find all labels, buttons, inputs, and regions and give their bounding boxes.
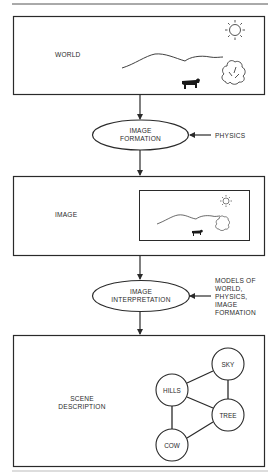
sun-icon: [225, 20, 245, 40]
small-hills-icon: [157, 215, 220, 224]
hills-icon: [122, 54, 223, 68]
svg-text:FORMATION: FORMATION: [215, 309, 256, 316]
scene-node-sky: SKY: [212, 348, 244, 380]
scene-label-line2: DESCRIPTION: [58, 403, 105, 410]
svg-text:IMAGE: IMAGE: [215, 301, 238, 308]
small-cow-icon: [192, 230, 203, 236]
models-label: MODELS OF WORLD, PHYSICS, IMAGE FORMATIO…: [215, 277, 256, 316]
tree-icon: [222, 61, 245, 85]
world-box: WORLD: [14, 17, 265, 95]
small-tree-icon: [216, 216, 230, 231]
scene-label-line1: SCENE: [70, 395, 94, 402]
interpretation-line1: IMAGE: [130, 288, 153, 295]
scene-node-hills: HILLS: [156, 374, 188, 406]
image-interpretation-process: IMAGE INTERPRETATION: [93, 281, 190, 312]
scene-description-box: SCENE DESCRIPTION SKY HILLS TREE COW: [14, 336, 265, 467]
svg-text:HILLS: HILLS: [163, 387, 181, 394]
scene-node-cow: COW: [156, 429, 188, 461]
cow-icon: [182, 79, 200, 90]
svg-text:MODELS OF: MODELS OF: [215, 277, 256, 284]
formation-line2: FORMATION: [120, 135, 161, 142]
interpretation-line2: INTERPRETATION: [111, 296, 170, 303]
formation-line1: IMAGE: [129, 127, 152, 134]
svg-text:COW: COW: [164, 442, 181, 449]
image-box: IMAGE: [14, 177, 265, 256]
physics-label: PHYSICS: [215, 132, 246, 139]
svg-text:SKY: SKY: [222, 361, 236, 368]
image-formation-process: IMAGE FORMATION: [93, 120, 189, 150]
world-label: WORLD: [55, 51, 81, 58]
svg-text:WORLD,: WORLD,: [215, 285, 243, 292]
scene-node-tree: TREE: [212, 399, 244, 431]
small-sun-icon: [220, 195, 232, 207]
svg-text:PHYSICS,: PHYSICS,: [215, 293, 247, 300]
svg-text:TREE: TREE: [219, 412, 236, 419]
image-label: IMAGE: [55, 211, 78, 218]
vision-pipeline-diagram: WORLD IMAGE FORMATION PHYSICS: [0, 0, 276, 473]
